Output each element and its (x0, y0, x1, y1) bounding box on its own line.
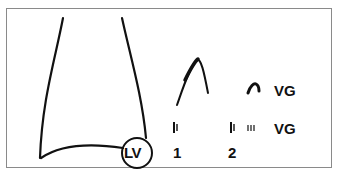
lv-label: LV (124, 145, 141, 160)
marker-2-label: 2 (228, 145, 236, 160)
tick-marks-vg (248, 125, 254, 131)
funnel-right-wall (122, 18, 146, 138)
vg-ticks-label: VG (274, 121, 296, 136)
small-vg-peak (248, 84, 259, 93)
marker-1-label: 1 (173, 145, 181, 160)
funnel-base-curve (41, 145, 123, 158)
funnel-left-wall (40, 18, 63, 158)
tick-marks-1 (174, 122, 177, 133)
tick-marks-2 (231, 122, 234, 133)
vg-peak-label: VG (274, 83, 296, 98)
